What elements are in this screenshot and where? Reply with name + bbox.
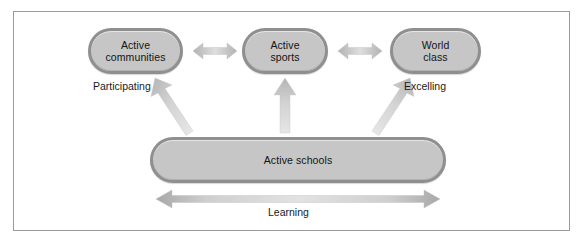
node-active-communities-line2: communities [105, 51, 165, 63]
node-active-sports-label: Active sports [264, 39, 305, 63]
node-active-sports-line1: Active [270, 39, 299, 51]
node-active-schools[interactable]: Active schools [150, 137, 446, 183]
connector-sports-world-icon [338, 43, 382, 59]
connector-schools-communities-icon [151, 78, 193, 136]
node-world-class[interactable]: World class [390, 28, 481, 74]
caption-participating: Participating [93, 80, 151, 93]
caption-excelling: Excelling [404, 80, 446, 93]
node-world-class-line2: class [423, 51, 447, 63]
node-active-communities[interactable]: Active communities [88, 28, 183, 74]
node-active-schools-label: Active schools [258, 154, 339, 166]
node-world-class-label: World class [416, 39, 456, 63]
diagram-canvas: Active communities Active sports World c… [0, 0, 583, 242]
node-active-sports[interactable]: Active sports [242, 28, 328, 74]
connector-communities-sports-icon [193, 43, 237, 59]
node-active-sports-line2: sports [270, 51, 299, 63]
caption-learning: Learning [268, 206, 309, 219]
connector-schools-sports-icon [274, 78, 296, 133]
node-world-class-line1: World [422, 39, 450, 51]
node-active-communities-label: Active communities [99, 39, 171, 63]
node-active-communities-line1: Active [121, 39, 150, 51]
